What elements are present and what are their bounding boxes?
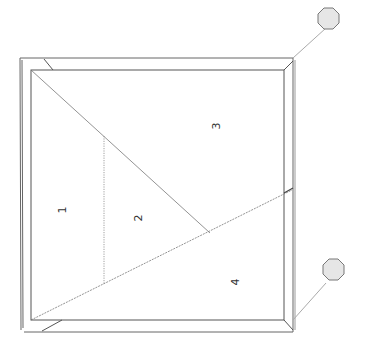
region-label-1: 1 [56, 207, 69, 214]
inner-square [31, 70, 284, 320]
outer-frame [20, 58, 295, 332]
marker-bottom[interactable] [323, 259, 344, 280]
octagon-icon [318, 8, 339, 29]
region-labels: 1 2 3 4 [56, 123, 242, 286]
region-label-3: 3 [210, 123, 223, 130]
division-lines [31, 70, 293, 320]
leader-lines [293, 28, 326, 320]
region-label-4: 4 [229, 279, 242, 286]
corner-miters [42, 59, 293, 331]
marker-top[interactable] [318, 8, 339, 29]
region-label-2: 2 [132, 215, 145, 222]
diagonal-lower [31, 190, 292, 320]
diagram-canvas: 1 2 3 4 [0, 0, 366, 350]
octagon-icon [323, 259, 344, 280]
